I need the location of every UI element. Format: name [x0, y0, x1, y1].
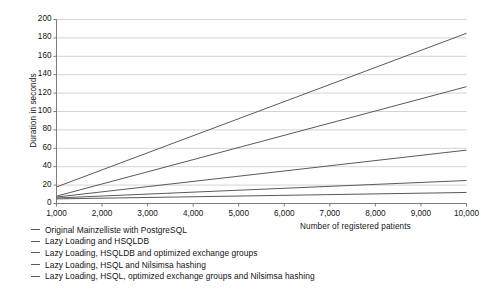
legend-item: Original Mainzelliste with PostgreSQL — [31, 224, 471, 236]
legend-item: Lazy Loading and HSQLDB — [31, 236, 471, 248]
legend-item: Lazy Loading, HSQL and Nilsimsa hashing — [31, 259, 471, 271]
legend-item-label: Lazy Loading, HSQL and Nilsimsa hashing — [45, 260, 206, 270]
legend-line-icon — [31, 252, 40, 253]
legend-item-label: Lazy Loading, HSQL, optimized exchange g… — [45, 271, 315, 281]
legend-item-label: Lazy Loading and HSQLDB — [45, 236, 149, 246]
chart-legend: Original Mainzelliste with PostgreSQLLaz… — [31, 224, 471, 282]
legend-line-icon — [31, 241, 40, 242]
legend-item-label: Lazy Loading, HSQLDB and optimized excha… — [45, 248, 257, 258]
tick-marks — [54, 20, 467, 207]
chart-figure: Duration in seconds Number of registered… — [0, 0, 481, 292]
legend-item: Lazy Loading, HSQLDB and optimized excha… — [31, 247, 471, 259]
legend-line-icon — [31, 276, 40, 277]
legend-item-label: Original Mainzelliste with PostgreSQL — [45, 225, 187, 235]
legend-line-icon — [31, 229, 40, 230]
data-series — [57, 33, 467, 199]
legend-line-icon — [31, 264, 40, 265]
legend-item: Lazy Loading, HSQL, optimized exchange g… — [31, 270, 471, 282]
gridlines — [57, 20, 467, 186]
